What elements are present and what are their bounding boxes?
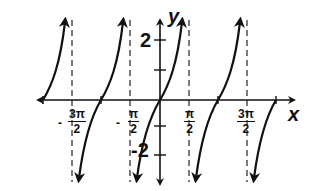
x-tick-sign-neg-pi-2: - [116, 116, 120, 130]
y-tick-label-neg-2: -2 [131, 140, 149, 160]
x-tick-label-neg-pi-2: π 2 [128, 108, 139, 135]
y-tick-label-2: 2 [140, 30, 151, 50]
x-tick-label-3pi-2: 3π 2 [237, 108, 255, 135]
branch-5 [254, 100, 276, 178]
branch-1 [43, 22, 65, 100]
x-tick-label-neg-3pi-2: 3π 2 [68, 108, 86, 135]
tangent-graph [0, 0, 309, 191]
x-tick-sign-neg-3pi-2: - [58, 116, 62, 130]
x-axis-label: x [288, 104, 299, 124]
y-axis-label: y [168, 6, 179, 26]
x-tick-label-pi-2: π 2 [184, 108, 195, 135]
